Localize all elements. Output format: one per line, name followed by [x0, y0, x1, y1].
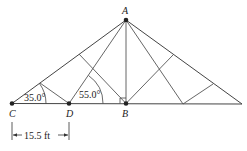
label-B: B — [122, 108, 128, 119]
label-A: A — [121, 5, 129, 16]
member-A-right — [126, 20, 183, 104]
left-top-chord — [12, 20, 126, 104]
node-D — [67, 101, 72, 106]
member-right-web-2 — [183, 84, 213, 104]
right-top-chord — [126, 20, 242, 104]
label-D: D — [65, 108, 74, 119]
node-B — [124, 101, 129, 106]
node-A — [124, 18, 129, 23]
node-C — [10, 101, 15, 106]
angle-label-C: 35.0° — [24, 92, 46, 103]
truss-diagram: 35.0° 55.0° A C D B 15.5 ft — [0, 0, 247, 151]
dimension-label-CD: 15.5 ft — [24, 130, 50, 141]
label-C: C — [9, 108, 16, 119]
angle-label-D: 55.0° — [79, 89, 101, 100]
dimension-arrow-right-icon — [64, 133, 68, 136]
dimension-arrow-left-icon — [13, 133, 17, 136]
